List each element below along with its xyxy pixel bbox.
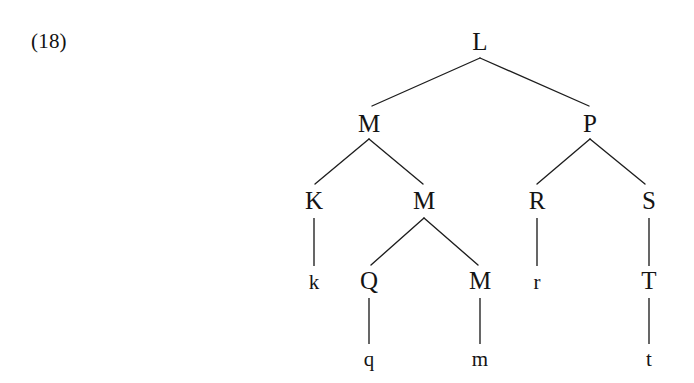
tree-node-L: L bbox=[472, 28, 487, 55]
tree-branch-L-M1 bbox=[372, 58, 480, 106]
tree-node-M2: M bbox=[413, 187, 435, 214]
tree-node-M1: M bbox=[358, 110, 380, 137]
tree-branch-M1-K bbox=[315, 139, 369, 184]
figure-root: (18) LMPKMRSkQMrTqmt bbox=[0, 0, 694, 383]
tree-branch-M2-M3 bbox=[424, 218, 478, 265]
tree-node-t: t bbox=[646, 347, 652, 371]
tree-node-r: r bbox=[534, 270, 541, 294]
tree-node-R: R bbox=[529, 187, 546, 214]
tree-branch-group bbox=[314, 58, 649, 344]
tree-node-P: P bbox=[583, 110, 597, 137]
tree-node-q: q bbox=[364, 347, 375, 371]
tree-node-S: S bbox=[642, 187, 656, 214]
tree-branch-M1-M2 bbox=[369, 139, 423, 184]
tree-node-M3: M bbox=[469, 267, 491, 294]
tree-branch-M2-Q bbox=[371, 218, 424, 265]
tree-branch-P-R bbox=[537, 139, 590, 184]
tree-node-group: LMPKMRSkQMrTqmt bbox=[305, 28, 657, 371]
syntax-tree-diagram: LMPKMRSkQMrTqmt bbox=[0, 0, 694, 383]
tree-node-m: m bbox=[472, 347, 488, 371]
tree-node-k: k bbox=[309, 270, 320, 294]
tree-node-Q: Q bbox=[360, 267, 378, 294]
tree-node-T: T bbox=[641, 267, 656, 294]
tree-branch-L-P bbox=[480, 58, 589, 106]
tree-branch-P-S bbox=[590, 139, 645, 184]
tree-node-K: K bbox=[305, 187, 323, 214]
